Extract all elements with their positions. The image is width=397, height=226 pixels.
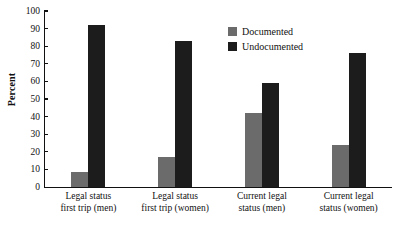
y-axis-tick-mark — [44, 46, 48, 47]
y-axis-tick-labels: 0102030405060708090100 — [12, 4, 40, 194]
y-axis-tick-label: 40 — [12, 112, 40, 122]
plot-area — [45, 11, 392, 187]
y-axis-tick-mark — [44, 28, 48, 29]
bar-undocumented — [88, 25, 105, 187]
bar-undocumented — [262, 83, 279, 187]
x-axis-category-label-line: status (women) — [297, 203, 397, 215]
bar-group — [305, 11, 392, 187]
y-axis-tick-label: 100 — [12, 6, 40, 16]
bar-group — [132, 11, 219, 187]
legend-entry-documented: Documented — [228, 24, 303, 38]
y-axis-tick-mark — [44, 63, 48, 64]
x-axis-category-labels: Legal statusfirst trip (men)Legal status… — [45, 191, 392, 225]
y-axis-tick-label: 80 — [12, 41, 40, 51]
bar-undocumented — [349, 53, 366, 187]
bar-documented — [158, 157, 175, 187]
y-axis-tick-label: 90 — [12, 24, 40, 34]
y-axis-tick-mark — [44, 134, 48, 135]
x-axis-category-label-line: Current legal — [297, 191, 397, 203]
legend-entry-undocumented: Undocumented — [228, 39, 303, 53]
bar-documented — [332, 145, 349, 187]
bar-chart-figure: Percent 0102030405060708090100 Documente… — [0, 0, 397, 226]
chart-legend: DocumentedUndocumented — [228, 24, 303, 54]
y-axis-tick-label: 70 — [12, 59, 40, 69]
bar-documented — [71, 172, 88, 187]
y-axis-tick-label: 30 — [12, 129, 40, 139]
y-axis-tick-mark — [44, 169, 48, 170]
y-axis-tick-mark — [44, 151, 48, 152]
y-axis-tick-label: 60 — [12, 76, 40, 86]
y-axis-tick-mark — [44, 116, 48, 117]
bar-documented — [245, 113, 262, 187]
legend-label: Undocumented — [242, 41, 303, 52]
y-axis-tick-label: 20 — [12, 147, 40, 157]
legend-swatch-undocumented-icon — [228, 42, 237, 51]
legend-label: Documented — [242, 26, 293, 37]
y-axis-tick-label: 10 — [12, 164, 40, 174]
y-axis-tick-label: 0 — [12, 182, 40, 192]
x-axis-category-label: Current legalstatus (women) — [297, 191, 397, 214]
y-axis-tick-mark — [44, 98, 48, 99]
bar-undocumented — [175, 41, 192, 187]
legend-swatch-documented-icon — [228, 27, 237, 36]
y-axis-tick-label: 50 — [12, 94, 40, 104]
bar-group — [45, 11, 132, 187]
y-axis-tick-mark — [44, 81, 48, 82]
y-axis-tick-mark — [44, 10, 48, 11]
